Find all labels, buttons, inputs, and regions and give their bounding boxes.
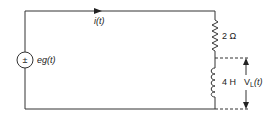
current-label: i(t) [94, 16, 105, 26]
resistor-icon [212, 20, 218, 51]
inductor-label: 4 H [222, 77, 236, 87]
circuit-diagram: ± eg(t) i(t) 2 Ω 4 H VL(t) [0, 0, 274, 118]
source-label: eg(t) [37, 55, 56, 65]
current-arrow-icon [94, 8, 102, 14]
resistor-label: 2 Ω [222, 31, 237, 41]
voltage-arrow-up-icon [243, 58, 249, 65]
source-symbol: ± [23, 55, 28, 65]
voltage-label: VL(t) [244, 77, 262, 88]
voltage-label-tail: (t) [254, 77, 263, 87]
inductor-icon [211, 68, 215, 97]
voltage-arrow-down-icon [243, 102, 249, 109]
